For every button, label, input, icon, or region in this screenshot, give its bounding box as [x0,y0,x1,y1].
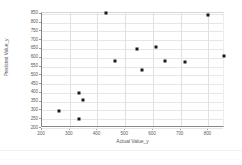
x-axis-tick-label: 200 [37,131,44,136]
data-point [222,54,225,57]
x-axis-title: Actual Value_y [41,138,224,144]
data-point [183,60,186,63]
y-axis-tick-label: 850 [31,10,38,15]
gridline-vertical [181,13,182,126]
x-axis-tick-label: 800 [204,131,211,136]
gridline-vertical [153,13,154,126]
y-axis-tick-label: 800 [31,19,38,24]
y-axis-tick-label: 550 [31,63,38,68]
y-axis-tick-label: 650 [31,45,38,50]
data-point [140,68,143,71]
plot-area [41,12,224,127]
card-bottom-divider [0,150,242,151]
data-point [136,47,139,50]
y-axis-tick-label: 450 [31,81,38,86]
x-axis-tick-label: 500 [120,131,127,136]
x-axis-tick-label: 300 [65,131,72,136]
data-point [154,45,157,48]
gridline-vertical [97,13,98,126]
y-axis-tick-label: 700 [31,37,38,42]
x-axis-tick-label: 600 [148,131,155,136]
y-axis-tick-label: 350 [31,98,38,103]
gridline-vertical [208,13,209,126]
data-point [164,60,167,63]
data-point [77,118,80,121]
data-point [113,59,116,62]
gridline-horizontal [42,128,223,129]
card-bottom-divider-secondary [0,159,242,160]
y-axis-tick-label: 250 [31,116,38,121]
y-axis-tick-label: 200 [31,125,38,130]
y-axis-tick-label: 300 [31,107,38,112]
y-axis-tick-label: 750 [31,28,38,33]
y-axis-title-text: Predicted Value_y [5,39,10,77]
y-axis-title: Predicted Value_y [2,0,12,115]
chart-card: Predicted Value_y 2002503003504004505005… [0,0,242,151]
gridline-vertical [125,13,126,126]
scatter-chart: Predicted Value_y 2002503003504004505005… [0,0,242,151]
data-point [82,98,85,101]
gridline-vertical [70,13,71,126]
chart-screenshot: Predicted Value_y 2002503003504004505005… [0,0,242,165]
data-point [207,13,210,16]
data-point [104,12,107,15]
x-axis-tick-label: 400 [93,131,100,136]
x-axis-tick-label: 700 [176,131,183,136]
y-axis-tick-label: 500 [31,72,38,77]
y-axis-tick-label: 400 [31,89,38,94]
y-axis-tick-label: 600 [31,54,38,59]
data-point [57,109,60,112]
data-point [77,91,80,94]
